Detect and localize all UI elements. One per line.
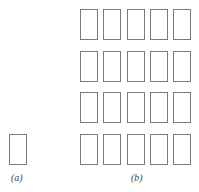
panel-b-rectangle bbox=[80, 9, 98, 40]
panel-b-rectangle bbox=[103, 51, 121, 82]
panel-b-rectangle bbox=[150, 9, 168, 40]
panel-b-rectangle bbox=[150, 51, 168, 82]
panel-b-rectangle bbox=[80, 92, 98, 123]
panel-b-rectangle bbox=[103, 9, 121, 40]
panel-b-rectangle bbox=[80, 51, 98, 82]
panel-b-rectangle bbox=[127, 51, 145, 82]
panel-b-rectangle bbox=[127, 134, 145, 165]
panel-b-rectangle bbox=[127, 9, 145, 40]
panel-b-rectangle bbox=[103, 134, 121, 165]
panel-b-rectangle bbox=[173, 134, 191, 165]
panel-b-rectangle bbox=[173, 9, 191, 40]
panel-b-rectangle bbox=[150, 134, 168, 165]
panel-b-rectangle bbox=[150, 92, 168, 123]
panel-b-rectangle bbox=[127, 92, 145, 123]
panel-b bbox=[0, 0, 199, 192]
panel-b-rectangle bbox=[103, 92, 121, 123]
panel-b-label: (b) bbox=[131, 172, 143, 184]
panel-b-rectangle bbox=[173, 51, 191, 82]
panel-b-rectangle bbox=[80, 134, 98, 165]
panel-b-rectangle bbox=[173, 92, 191, 123]
